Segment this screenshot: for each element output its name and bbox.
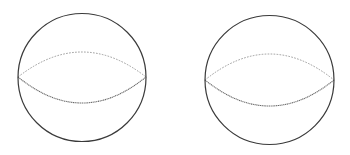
front-equator-arc: [205, 80, 334, 106]
sphere-outline: [18, 14, 146, 142]
back-equator-arc: [18, 52, 146, 77]
spheres-diagram: [0, 0, 350, 155]
sphere-2: [205, 16, 334, 145]
sphere-1: [18, 14, 146, 142]
front-equator-arc: [18, 77, 146, 103]
back-equator-arc: [205, 54, 334, 80]
sphere-outline: [205, 16, 334, 145]
